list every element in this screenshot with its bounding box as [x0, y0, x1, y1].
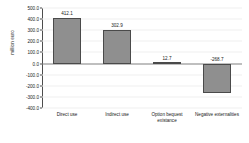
bar-slot: 412.1 [42, 8, 92, 108]
x-category-label: Option bequest existance [142, 112, 192, 124]
bar-slot: -268.7 [192, 8, 242, 108]
y-axis-title: million euro [10, 13, 15, 73]
bar-value-label: 302.9 [92, 23, 142, 28]
y-tick-label: -200.0 [26, 83, 39, 88]
bar-value-label: 412.1 [42, 11, 92, 16]
plot-area: 500.0400.0300.0200.0100.00.0-100.0-200.0… [42, 8, 242, 108]
y-tick-label: 100.0 [28, 50, 40, 55]
y-tick-label: 0.0 [33, 61, 39, 66]
y-tick-label: -300.0 [26, 94, 39, 99]
y-tick-label: 500.0 [28, 6, 40, 11]
x-category-label: Direct use [42, 112, 92, 118]
y-tick-label: 200.0 [28, 39, 40, 44]
bar[interactable] [203, 64, 231, 94]
bar-series: 412.1302.912.7-268.7 [42, 8, 242, 108]
bar-slot: 12.7 [142, 8, 192, 108]
bar-chart: million euro 500.0400.0300.0200.0100.00.… [0, 0, 249, 143]
y-tick-label: 300.0 [28, 28, 40, 33]
bar-slot: 302.9 [92, 8, 142, 108]
bar-value-label: 12.7 [142, 56, 192, 61]
y-tick-label: -100.0 [26, 72, 39, 77]
bar[interactable] [53, 18, 81, 64]
bar[interactable] [153, 62, 181, 64]
x-category-label: Negative externalities [192, 112, 242, 118]
x-category-label: Indirect use [92, 112, 142, 118]
bar-value-label: -268.7 [192, 57, 242, 62]
y-tick-label: 400.0 [28, 17, 40, 22]
bar[interactable] [103, 30, 131, 64]
y-tick-label: -400.0 [26, 106, 39, 111]
